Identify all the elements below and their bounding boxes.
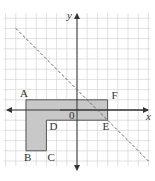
vertex-label-b: B (24, 151, 31, 163)
vertex-label-e: E (103, 120, 110, 132)
y-axis-label: y (66, 9, 72, 21)
vertex-label-a: A (20, 87, 28, 99)
vertex-label-f: F (112, 89, 118, 101)
origin-label: 0 (69, 109, 75, 121)
vertex-label-c: C (47, 151, 54, 163)
vertex-label-d: D (49, 120, 57, 132)
x-axis-label: x (145, 110, 151, 122)
coordinate-plane-figure: AFEDCB x y 0 (0, 0, 155, 181)
